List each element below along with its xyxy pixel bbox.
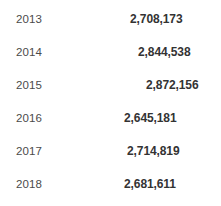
category-label-2015: 2015 (0, 74, 42, 97)
bar-chart: 2013 2,708,173 2014 2,844,538 2015 2,872… (0, 0, 221, 206)
category-label-2013: 2013 (0, 8, 42, 31)
bar-row: 2016 2,645,181 (0, 107, 221, 130)
bar-row: 2013 2,708,173 (0, 8, 221, 31)
bar-track-2013 (48, 8, 124, 31)
category-label-2014: 2014 (0, 41, 42, 64)
bar-track-2014 (48, 41, 132, 64)
value-label-2014: 2,844,538 (138, 41, 191, 64)
category-label-2016: 2016 (0, 107, 42, 130)
bar-track-2015 (48, 74, 140, 97)
value-label-2018: 2,681,611 (124, 173, 176, 196)
bar-row: 2017 2,714,819 (0, 140, 221, 163)
category-label-2018: 2018 (0, 173, 42, 196)
category-label-2017: 2017 (0, 140, 42, 163)
bar-track-2017 (48, 140, 121, 163)
bar-row: 2018 2,681,611 (0, 173, 221, 196)
value-label-2013: 2,708,173 (130, 8, 183, 31)
value-label-2015: 2,872,156 (146, 74, 199, 97)
bar-row: 2015 2,872,156 (0, 74, 221, 97)
bar-track-2016 (48, 107, 118, 130)
value-label-2016: 2,645,181 (124, 107, 177, 130)
value-label-2017: 2,714,819 (127, 140, 180, 163)
bar-row: 2014 2,844,538 (0, 41, 221, 64)
bar-track-2018 (48, 173, 118, 196)
